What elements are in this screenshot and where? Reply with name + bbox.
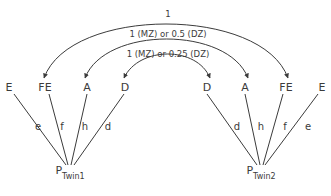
edge-label-d-right: d: [234, 122, 240, 132]
node-phenotype-twin2: PTwin2: [246, 165, 275, 179]
edge-label-f-right: f: [283, 122, 287, 132]
phenotype-twin1-subscript: Twin1: [62, 172, 85, 181]
node-E-right: E: [319, 82, 326, 93]
path-diagram: E FE A D D A FE E e f h d d h f e 1 1 (M…: [0, 0, 331, 196]
phenotype-twin2-letter: P: [246, 164, 253, 177]
node-D-right: D: [203, 82, 211, 93]
node-FE-left: FE: [38, 82, 51, 93]
node-E-left: E: [6, 82, 13, 93]
path-line-d-right: [207, 94, 257, 165]
edge-label-e-left: e: [35, 122, 41, 132]
node-phenotype-twin1: PTwin1: [55, 165, 84, 179]
edge-label-f-left: f: [60, 122, 64, 132]
node-D-left: D: [121, 82, 129, 93]
phenotype-twin1-letter: P: [55, 164, 62, 177]
node-A-right: A: [241, 82, 249, 93]
arc-label-fe: 1: [165, 10, 170, 19]
node-FE-right: FE: [279, 82, 292, 93]
edge-label-e-right: e: [305, 122, 311, 132]
node-A-left: A: [83, 82, 91, 93]
arc-label-d: 1 (MZ) or 0.25 (DZ): [127, 50, 210, 59]
edge-label-h-left: h: [82, 122, 88, 132]
edge-label-h-right: h: [258, 122, 264, 132]
arc-label-a: 1 (MZ) or 0.5 (DZ): [129, 30, 206, 39]
edge-label-d-left: d: [105, 122, 111, 132]
phenotype-twin2-subscript: Twin2: [253, 172, 276, 181]
